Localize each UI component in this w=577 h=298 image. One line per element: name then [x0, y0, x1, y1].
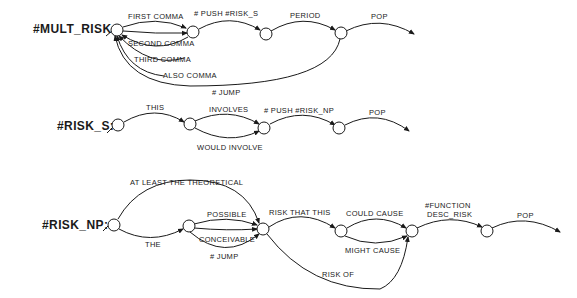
arc-label: # PUSH #RISK_NP [264, 106, 334, 115]
arc-pop [345, 118, 409, 131]
network-title: #RISK_S: [57, 119, 114, 133]
arc-conceivable [194, 228, 257, 230]
arc-label: POP [369, 108, 386, 117]
state-node [333, 122, 345, 134]
state-node [187, 26, 199, 38]
arc-label: SECOND COMMA [128, 39, 195, 48]
arc-label: # PUSH #RISK_S [194, 9, 258, 18]
arc-this [124, 113, 184, 122]
arc-label: THIRD COMMA [134, 55, 191, 64]
state-node [184, 118, 196, 130]
network-mult-risk: #MULT_RISK: FIRST COMMA SECOND COMMA THI… [33, 9, 414, 97]
arc-push-risk-s [199, 21, 260, 30]
arc-label: # JUMP [212, 88, 240, 97]
state-node [481, 225, 493, 237]
arc-risk-that-this [269, 217, 335, 228]
arc-label: POSSIBLE [207, 210, 247, 219]
arc-period [271, 21, 335, 31]
arc-label: POP [517, 211, 534, 220]
state-node [260, 28, 272, 40]
arc-label: COULD CAUSE [346, 209, 403, 218]
arc-label: RISK THAT THIS [269, 208, 331, 217]
arc-label: FIRST COMMA [128, 12, 184, 21]
state-node [183, 220, 195, 232]
state-node [108, 219, 120, 231]
arc-label: INVOLVES [209, 105, 248, 114]
state-node [335, 225, 347, 237]
network-risk-s: #RISK_S: THIS INVOLVES WOULD INVOLVE # P… [57, 103, 409, 152]
arc-label: AT LEAST THE THEORETICAL [130, 178, 243, 187]
arc-second-comma [123, 31, 187, 33]
arc-label: POP [371, 12, 388, 21]
arc-the [119, 229, 183, 238]
network-title: #MULT_RISK: [33, 22, 116, 36]
arc-label: THIS [146, 103, 164, 112]
state-node [112, 119, 124, 131]
arc-label: DESC_RISK [427, 210, 472, 219]
arc-label: THE [145, 240, 161, 249]
arc-would-involve [195, 128, 259, 138]
state-node [406, 225, 418, 237]
arc-might-cause [345, 236, 407, 243]
arc-push-risk-np [270, 115, 335, 125]
arc-could-cause [347, 219, 406, 228]
arc-label: ALSO COMMA [163, 71, 217, 80]
arc-possible [194, 219, 257, 225]
arc-label: RISK OF [322, 270, 354, 279]
network-title: #RISK_NP: [42, 218, 108, 232]
arc-function-desc-risk [417, 220, 482, 228]
state-node [111, 24, 123, 36]
arc-pop [346, 23, 414, 34]
network-risk-np: #RISK_NP: AT LEAST THE THEORETICAL THE P… [42, 178, 560, 289]
arc-label: WOULD INVOLVE [197, 143, 263, 152]
arc-first-comma [123, 21, 186, 28]
arc-involves [195, 114, 259, 124]
arc-pop [492, 221, 560, 232]
state-node [257, 223, 269, 235]
arc-label: MIGHT CAUSE [345, 246, 400, 255]
arc-label: PERIOD [290, 11, 321, 20]
atn-diagram: #MULT_RISK: FIRST COMMA SECOND COMMA THI… [0, 0, 577, 298]
arc-label: #FUNCTION [425, 201, 471, 210]
state-node [335, 27, 347, 39]
state-node [258, 122, 270, 134]
arc-label: # JUMP [210, 252, 238, 261]
